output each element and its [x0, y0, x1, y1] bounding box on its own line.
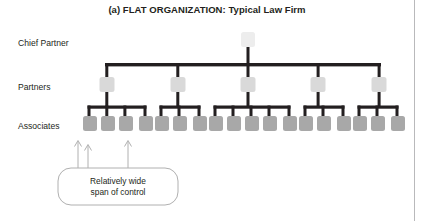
node-partner-4 — [311, 77, 326, 92]
node-partner-2 — [171, 77, 186, 92]
connector-group-1 — [88, 92, 147, 117]
node-chief-partner — [241, 32, 255, 47]
span-of-control-callout-text: Relatively wide span of control — [62, 176, 174, 198]
node-associate-17 — [371, 116, 385, 131]
node-associate-6 — [173, 116, 187, 131]
connector-group-4 — [304, 92, 345, 117]
callout-arrow-stub — [85, 145, 92, 171]
node-associate-5 — [155, 116, 169, 131]
node-associate-4 — [139, 116, 153, 131]
connector-chief-to-bus — [247, 47, 250, 65]
node-associate-15 — [337, 116, 351, 131]
node-associate-1 — [83, 116, 97, 131]
node-associate-12 — [283, 116, 297, 131]
connector-partner-bus — [105, 63, 381, 77]
node-partner-1 — [100, 77, 115, 92]
node-associate-13 — [299, 116, 313, 131]
callout-line-1: Relatively wide — [62, 176, 174, 187]
node-associate-14 — [317, 116, 331, 131]
node-associate-9 — [227, 116, 241, 131]
node-associate-2 — [101, 116, 115, 131]
figure-panel: (a) FLAT ORGANIZATION: Typical Law Firm … — [0, 0, 428, 221]
node-partner-5 — [372, 77, 387, 92]
node-associate-11 — [263, 116, 277, 131]
connector-group-2 — [160, 92, 201, 117]
callout-line-2: span of control — [62, 187, 174, 198]
callout-arrow-right — [125, 141, 132, 171]
node-associate-7 — [193, 116, 207, 131]
node-partner-3 — [241, 77, 256, 92]
node-associate-3 — [119, 116, 133, 131]
connector-group-3 — [214, 92, 291, 117]
node-associate-18 — [391, 116, 405, 131]
node-associate-16 — [353, 116, 367, 131]
callout-arrow-left — [75, 141, 82, 171]
node-associate-8 — [209, 116, 223, 131]
connector-group-5 — [358, 92, 399, 117]
node-associate-10 — [245, 116, 259, 131]
